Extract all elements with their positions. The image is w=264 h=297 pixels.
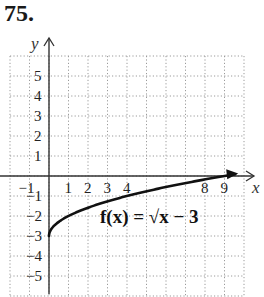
x-tick-label: 2 [84,180,92,196]
y-tick-label: −5 [26,268,42,284]
function-graph: xy −112348954321−1−2−3−4−5 f(x) = √x − 3 [0,0,264,297]
y-tick-label: 5 [34,68,42,84]
y-tick-label: −1 [26,188,42,204]
y-tick-label: 2 [34,128,42,144]
x-tick-label: 1 [65,180,73,196]
x-tick-label: 4 [123,180,131,196]
x-tick-label: 9 [221,180,229,196]
y-tick-label: 3 [34,108,42,124]
y-axis-label: y [29,34,39,53]
y-tick-label: 4 [34,88,42,104]
y-tick-label: −4 [26,248,42,264]
x-axis-label: x [251,178,260,197]
x-tick-label: 3 [104,180,112,196]
curve-arrow-icon [226,169,238,179]
y-tick-label: −2 [26,208,42,224]
x-tick-label: 8 [201,180,209,196]
y-tick-label: 1 [34,148,42,164]
function-label: f(x) = √x − 3 [100,206,199,228]
y-tick-label: −3 [26,228,42,244]
